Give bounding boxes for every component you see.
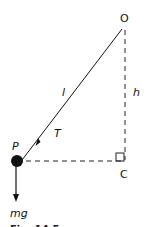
pendulum-diagram: O P C l h T mg Fig. 14.5	[0, 0, 148, 227]
right-angle-marker	[116, 153, 124, 161]
figure-caption: Fig. 14.5	[10, 224, 59, 227]
point-label-o: O	[120, 12, 129, 25]
height-label: h	[133, 86, 140, 99]
point-label-p: P	[12, 140, 19, 153]
weight-arrow-icon	[13, 194, 19, 202]
string-line	[22, 29, 122, 160]
length-label: l	[62, 86, 65, 99]
pendulum-bob	[11, 155, 23, 167]
tension-label: T	[54, 127, 62, 140]
weight-label: mg	[10, 207, 28, 220]
point-label-c: C	[120, 168, 128, 181]
